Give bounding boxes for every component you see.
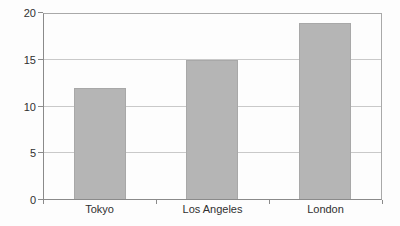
y-tick-mark-20 <box>38 12 43 13</box>
x-tick-mark-0 <box>43 200 44 204</box>
bars <box>44 14 381 199</box>
category-cell-los-angeles <box>156 14 268 199</box>
bar-london <box>299 23 351 199</box>
category-cell-london <box>269 14 381 199</box>
y-tick-label-15: 15 <box>6 54 36 66</box>
x-category-label-los-angeles: Los Angeles <box>156 203 269 216</box>
bar-los-angeles <box>186 60 238 199</box>
y-tick-label-10: 10 <box>6 101 36 113</box>
y-tick-label-5: 5 <box>6 147 36 159</box>
category-cell-tokyo <box>44 14 156 199</box>
x-tick-mark-2 <box>269 200 270 204</box>
x-tick-mark-3 <box>382 200 383 204</box>
bar-tokyo <box>74 88 126 199</box>
x-category-label-tokyo: Tokyo <box>43 203 156 216</box>
y-tick-mark-10 <box>38 106 43 107</box>
y-tick-label-20: 20 <box>6 7 36 19</box>
x-category-label-london: London <box>269 203 382 216</box>
plot-area <box>43 13 382 200</box>
x-tick-mark-1 <box>156 200 157 204</box>
y-tick-mark-5 <box>38 152 43 153</box>
y-tick-label-0: 0 <box>6 194 36 206</box>
y-tick-mark-15 <box>38 59 43 60</box>
bar-chart-figure: 05101520 TokyoLos AngelesLondon <box>0 0 400 226</box>
